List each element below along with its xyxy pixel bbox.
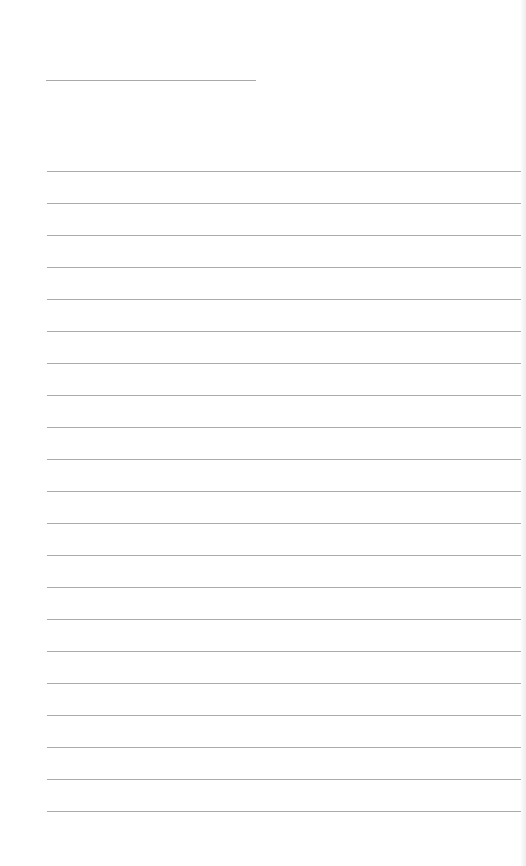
ruled-line <box>47 747 521 748</box>
ruled-line <box>47 715 521 716</box>
title-underline <box>46 80 256 81</box>
ruled-line <box>47 299 521 300</box>
ruled-line <box>47 523 521 524</box>
ruled-line <box>47 427 521 428</box>
ruled-line <box>47 203 521 204</box>
ruled-line <box>47 651 521 652</box>
page-edge-shadow <box>520 0 526 866</box>
ruled-line <box>47 779 521 780</box>
ruled-line <box>47 363 521 364</box>
ruled-line <box>47 235 521 236</box>
ruled-line <box>47 459 521 460</box>
ruled-line <box>47 395 521 396</box>
ruled-line <box>47 555 521 556</box>
ruled-line <box>47 811 521 812</box>
ruled-line <box>47 331 521 332</box>
ruled-line <box>47 267 521 268</box>
lined-paper-page <box>0 0 526 866</box>
ruled-line <box>47 619 521 620</box>
ruled-line <box>47 491 521 492</box>
ruled-line <box>47 587 521 588</box>
ruled-line <box>47 683 521 684</box>
ruled-line <box>47 171 521 172</box>
